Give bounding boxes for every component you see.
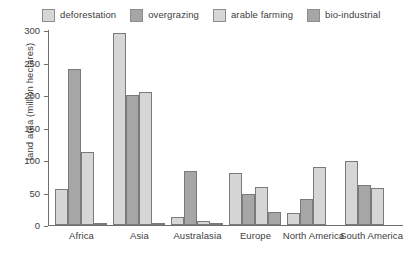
y-axis-tick-label: 0 <box>4 221 40 231</box>
bar <box>371 188 384 225</box>
bar <box>287 213 300 225</box>
bar <box>94 223 107 225</box>
bar-group-bars <box>287 30 340 225</box>
legend-label: overgrazing <box>148 10 199 20</box>
y-axis-tick-mark <box>44 161 48 162</box>
bar-group: Asia <box>113 30 166 225</box>
bar <box>197 221 210 225</box>
bar <box>255 187 268 225</box>
y-axis-tick-mark <box>44 96 48 97</box>
bar-group: North America <box>287 30 340 225</box>
bar <box>184 171 197 225</box>
bar-group-bars <box>171 30 224 225</box>
bar <box>242 194 255 225</box>
legend-item: overgrazing <box>130 9 199 22</box>
bar <box>68 69 81 225</box>
bar <box>126 95 139 225</box>
bar <box>358 185 371 225</box>
bar <box>313 167 326 225</box>
bar-group-bars <box>345 30 398 225</box>
y-axis-tick-label: 250 <box>4 59 40 69</box>
bar <box>113 33 126 225</box>
plot-area: 050100150200250300 AfricaAsiaAustralasia… <box>48 30 403 226</box>
bar <box>229 173 242 225</box>
bar-group: Australasia <box>171 30 224 225</box>
bar-chart: deforestationovergrazingarable farmingbi… <box>0 0 410 258</box>
legend-label: bio-industrial <box>325 10 380 20</box>
y-axis-tick-label: 50 <box>4 189 40 199</box>
legend-label: arable farming <box>231 10 293 20</box>
legend-label: deforestation <box>60 10 116 20</box>
bar-group-bars <box>55 30 108 225</box>
y-axis-tick-mark <box>44 226 48 227</box>
bar <box>268 212 281 225</box>
bar-group: South America <box>345 30 398 225</box>
bar <box>152 223 165 225</box>
y-axis-tick-mark <box>44 64 48 65</box>
y-axis-tick-label: 200 <box>4 91 40 101</box>
legend-item: bio-industrial <box>307 9 380 22</box>
y-axis-tick-label: 100 <box>4 156 40 166</box>
y-axis-tick-mark <box>44 31 48 32</box>
y-axis-tick-mark <box>44 129 48 130</box>
legend-item: deforestation <box>42 9 116 22</box>
bar <box>210 223 223 225</box>
bar <box>55 189 68 225</box>
y-axis-tick-label: 300 <box>4 26 40 36</box>
legend-swatch-icon <box>307 9 320 22</box>
bar <box>81 152 94 225</box>
chart-legend: deforestationovergrazingarable farmingbi… <box>42 6 407 24</box>
legend-swatch-icon <box>42 9 55 22</box>
legend-item: arable farming <box>213 9 293 22</box>
bar-group: Africa <box>55 30 108 225</box>
y-axis-line <box>48 30 49 226</box>
legend-swatch-icon <box>213 9 226 22</box>
y-axis-tick-label: 150 <box>4 124 40 134</box>
bar-group-bars <box>113 30 166 225</box>
bar <box>171 217 184 225</box>
bar <box>300 199 313 225</box>
bar-group-bars <box>229 30 282 225</box>
y-axis-tick-mark <box>44 194 48 195</box>
legend-swatch-icon <box>130 9 143 22</box>
x-axis-line <box>48 225 403 226</box>
bar <box>345 161 358 225</box>
bar-group: Europe <box>229 30 282 225</box>
x-axis-category-label: South America <box>334 230 410 241</box>
bar <box>139 92 152 225</box>
